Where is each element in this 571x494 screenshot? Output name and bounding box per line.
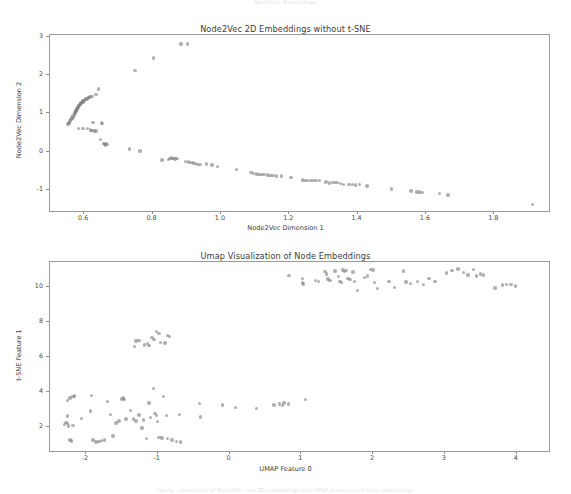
scatter-point bbox=[353, 280, 356, 283]
scatter-point bbox=[371, 268, 374, 271]
scatter-point bbox=[140, 426, 143, 429]
scatter-point bbox=[404, 280, 407, 283]
scatter-point bbox=[287, 274, 290, 277]
x-tick-mark bbox=[444, 452, 445, 455]
x-tick-label: 0 bbox=[226, 454, 230, 462]
x-tick-mark bbox=[493, 212, 494, 215]
scatter-point bbox=[501, 283, 504, 286]
x-tick-label: 1.6 bbox=[420, 214, 430, 222]
scatter-point bbox=[170, 438, 173, 441]
y-tick-label: 3 bbox=[39, 32, 46, 40]
scatter-point bbox=[71, 424, 74, 427]
scatter-point bbox=[505, 283, 508, 286]
scatter-point bbox=[165, 414, 168, 417]
y-tick-label: 0 bbox=[39, 147, 46, 155]
x-tick-mark bbox=[157, 452, 158, 455]
scatter-point bbox=[179, 42, 182, 45]
x-tick-label: 1.4 bbox=[352, 214, 362, 222]
scatter-point bbox=[333, 269, 336, 272]
scatter-point bbox=[81, 127, 84, 130]
scatter-point bbox=[348, 278, 351, 281]
scatter-point bbox=[317, 280, 320, 283]
scatter-point bbox=[409, 189, 412, 192]
scatter-point bbox=[70, 439, 73, 442]
scatter-point bbox=[282, 401, 285, 404]
scatter-point bbox=[509, 283, 512, 286]
scatter-point bbox=[450, 269, 453, 272]
x-tick-mark bbox=[229, 452, 230, 455]
scatter-point bbox=[433, 280, 436, 283]
scatter-point bbox=[155, 414, 158, 417]
scatter-point bbox=[145, 437, 148, 440]
scatter-point bbox=[106, 143, 109, 146]
scatter-point bbox=[373, 281, 376, 284]
y-tick-label: 6 bbox=[39, 352, 46, 360]
scatter-point bbox=[531, 203, 534, 206]
scatter-point bbox=[175, 157, 178, 160]
scatter-point bbox=[356, 289, 359, 292]
x-tick-label: 1.0 bbox=[215, 214, 225, 222]
scatter-point bbox=[358, 183, 361, 186]
scatter-point bbox=[73, 114, 76, 117]
y-tick-label: 4 bbox=[39, 387, 46, 395]
x-tick-label: 0.6 bbox=[78, 214, 88, 222]
scatter-point bbox=[90, 394, 93, 397]
x-tick-mark bbox=[83, 212, 84, 215]
x-tick-mark bbox=[220, 212, 221, 215]
scatter-point bbox=[366, 274, 369, 277]
x-tick-mark bbox=[372, 452, 373, 455]
scatter-point bbox=[73, 394, 76, 397]
scatter-point bbox=[445, 271, 448, 274]
scatter-point bbox=[163, 341, 166, 344]
y-axis-ticks-2: 246810 bbox=[0, 261, 46, 452]
plot-area-1 bbox=[49, 34, 550, 212]
scatter-point bbox=[427, 277, 430, 280]
scatter-point bbox=[289, 176, 292, 179]
x-tick-mark bbox=[85, 452, 86, 455]
x-tick-label: 2 bbox=[370, 454, 374, 462]
figure-page: Node2Vec Embeddings Node2Vec 2D Embeddin… bbox=[0, 0, 571, 494]
scatter-point bbox=[438, 192, 441, 195]
scatter-point bbox=[462, 271, 465, 274]
x-tick-label: 1.2 bbox=[283, 214, 293, 222]
scatter-point bbox=[124, 417, 127, 420]
scatter-point bbox=[482, 273, 485, 276]
scatter-point bbox=[147, 344, 150, 347]
scatter-point bbox=[365, 184, 368, 187]
scatter-point bbox=[134, 419, 137, 422]
x-tick-label: 4 bbox=[514, 454, 518, 462]
scatter-point bbox=[198, 402, 201, 405]
scatter-point bbox=[156, 420, 159, 423]
scatter-point bbox=[67, 424, 70, 427]
scatter-points-1 bbox=[50, 35, 549, 211]
x-axis-label-1: Node2Vec Dimension 1 bbox=[0, 224, 571, 232]
scatter-point bbox=[97, 87, 100, 90]
x-tick-mark bbox=[516, 452, 517, 455]
scatter-point bbox=[340, 281, 343, 284]
scatter-point bbox=[514, 284, 517, 287]
scatter-point bbox=[80, 417, 83, 420]
scatter-point bbox=[159, 341, 162, 344]
scatter-point bbox=[133, 345, 136, 348]
x-tick-label: -1 bbox=[154, 454, 160, 462]
y-tick-label: 10 bbox=[35, 282, 46, 290]
scatter-point bbox=[304, 398, 307, 401]
scatter-point bbox=[493, 286, 496, 289]
scatter-point bbox=[420, 191, 423, 194]
scatter-point bbox=[94, 93, 97, 96]
scatter-point bbox=[221, 403, 224, 406]
scatter-point bbox=[235, 168, 238, 171]
scatter-point bbox=[117, 419, 120, 422]
scatter-point bbox=[152, 338, 155, 341]
scatter-point bbox=[216, 165, 219, 168]
x-tick-label: 3 bbox=[442, 454, 446, 462]
scatter-point bbox=[272, 403, 275, 406]
scatter-point bbox=[77, 127, 80, 130]
scatter-point bbox=[325, 272, 328, 275]
scatter-point bbox=[275, 174, 278, 177]
scatter-point bbox=[210, 163, 213, 166]
y-tick-label: -1 bbox=[37, 185, 46, 193]
scatter-point bbox=[152, 387, 155, 390]
scatter-point bbox=[109, 413, 112, 416]
scatter-point bbox=[91, 121, 94, 124]
